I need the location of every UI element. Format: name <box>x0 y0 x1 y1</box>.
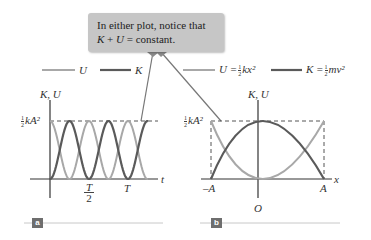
leader-line-b <box>161 52 221 121</box>
plot-b-y-label: K, U <box>248 88 269 100</box>
callout-line-2: K + U = constant. <box>97 32 205 46</box>
tick-amplitude: A <box>320 182 327 194</box>
lhs: U = <box>219 63 237 75</box>
plus: + <box>104 33 116 45</box>
legend-label-k: K <box>135 64 142 76</box>
fraction: 12 <box>21 115 24 128</box>
k-parabola <box>211 121 324 179</box>
plot-b-x-label: x <box>334 173 339 185</box>
u-parabola <box>211 121 324 179</box>
callout-line-1: In either plot, notice that <box>97 18 205 32</box>
lhs: K = <box>306 63 324 75</box>
legend-label-u: U <box>79 64 87 76</box>
rest: kA² <box>188 114 203 126</box>
plot-a-max-label: 12kA² <box>20 114 40 128</box>
num: 1 <box>184 115 187 122</box>
num: 1 <box>325 64 328 71</box>
callout-text: In either plot, notice that K + U = cons… <box>97 18 205 46</box>
panel-tag-a: a <box>32 218 43 228</box>
plot-a-y-label: K, U <box>40 88 61 100</box>
den: 2 <box>184 122 187 128</box>
legend-label-u-formula: U =12kx² <box>219 63 255 77</box>
den: 2 <box>325 71 328 77</box>
tick-neg-amplitude: –A <box>203 182 215 194</box>
rhs: kx² <box>242 63 255 75</box>
panel-tag-b: b <box>211 218 222 228</box>
den: 2 <box>21 122 24 128</box>
legend-label-k-formula: K =12mv² <box>306 63 345 77</box>
leader-line-a <box>141 52 153 121</box>
tick-period: T <box>124 182 130 194</box>
symbol-u: U <box>116 33 124 45</box>
callout-box: In either plot, notice that K + U = cons… <box>88 13 224 52</box>
plot-b <box>201 100 332 198</box>
rest: kA² <box>25 114 40 126</box>
origin-label: O <box>254 202 262 214</box>
den: 2 <box>238 71 241 77</box>
rhs: mv² <box>329 63 345 75</box>
fraction: 12 <box>325 64 328 77</box>
tick-half-period: T 2 <box>84 182 94 203</box>
plot-b-max-label: 12kA² <box>183 114 203 128</box>
plot-a <box>30 100 158 198</box>
equals-constant: = constant. <box>124 33 175 45</box>
den: 2 <box>84 193 94 203</box>
num: 1 <box>21 115 24 122</box>
fraction: 12 <box>184 115 187 128</box>
plot-a-x-label: t <box>161 173 164 185</box>
num: 1 <box>238 64 241 71</box>
fraction: 12 <box>238 64 241 77</box>
